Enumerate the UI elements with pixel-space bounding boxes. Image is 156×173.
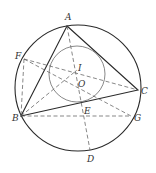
label-o: O xyxy=(78,79,86,89)
label-f: F xyxy=(14,51,22,61)
label-e: E xyxy=(83,106,91,116)
label-a: A xyxy=(64,12,72,22)
label-d: D xyxy=(86,154,94,164)
label-b: B xyxy=(11,113,19,123)
incircle xyxy=(49,46,105,102)
line-fb xyxy=(21,59,24,116)
label-c: C xyxy=(141,86,148,96)
geometry-diagram: A B C D E F G I O xyxy=(0,0,156,173)
label-g: G xyxy=(134,113,141,123)
label-i: I xyxy=(77,63,82,73)
